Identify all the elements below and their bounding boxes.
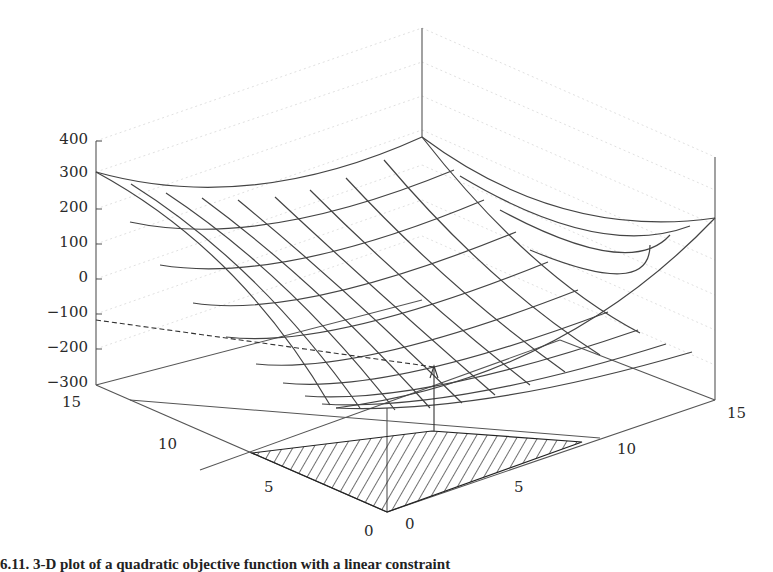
- x-tick-label: 10: [617, 440, 636, 458]
- z-tick-label: 200: [24, 198, 88, 216]
- z-tick-label: 100: [24, 233, 88, 251]
- z-tick-label: 400: [24, 130, 88, 148]
- z-ticks: [96, 209, 102, 349]
- z-tick-label: −300: [24, 373, 88, 391]
- surface-plot: [0, 0, 773, 572]
- y-tick-label: 5: [264, 478, 274, 496]
- z-tick-label: 0: [24, 268, 88, 286]
- z-tick-label: −100: [24, 303, 88, 321]
- back-grid: [96, 28, 715, 365]
- y-tick-label: 15: [62, 393, 81, 411]
- figure-caption: 6.11. 3-D plot of a quadratic objective …: [0, 556, 450, 572]
- z-tick-label: −200: [24, 338, 88, 356]
- feasible-region: [252, 431, 582, 512]
- x-tick-label: 0: [405, 515, 415, 533]
- surface-mesh: [96, 137, 715, 410]
- y-tick-label: 10: [158, 435, 177, 453]
- y-tick-label: 0: [364, 522, 374, 540]
- z-tick-label: 300: [24, 163, 88, 181]
- x-tick-label: 15: [727, 404, 746, 422]
- x-tick-label: 5: [514, 478, 524, 496]
